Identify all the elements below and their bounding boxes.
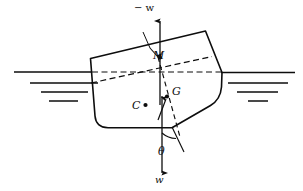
- water-hatch-left: [30, 83, 98, 101]
- center-of-buoyancy-point: [143, 103, 147, 107]
- heel-angle-label: θ: [158, 146, 165, 157]
- center-of-gravity-point: [165, 94, 169, 98]
- center-of-gravity-label: G: [172, 86, 181, 97]
- stability-diagram-figure: − w M C G θ w: [0, 0, 303, 191]
- heel-angle-leg: [172, 127, 184, 152]
- buoyancy-force-label: − w: [134, 3, 154, 13]
- dashed-waterplane-tilted: [91, 57, 212, 84]
- diagram-canvas: [0, 0, 303, 191]
- water-hatch-right: [228, 83, 288, 101]
- center-of-buoyancy-label: C: [132, 100, 140, 111]
- weight-force-label: w: [155, 175, 164, 185]
- metacenter-label: M: [153, 50, 164, 61]
- heel-angle-arc: [162, 133, 176, 139]
